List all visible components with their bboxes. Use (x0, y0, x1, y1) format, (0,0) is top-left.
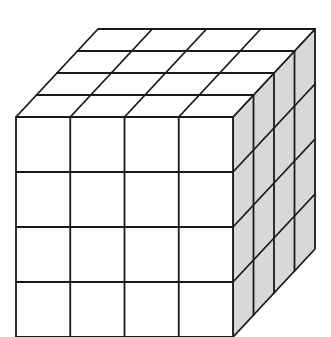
cube-diagram (0, 0, 331, 337)
front-face (16, 117, 233, 337)
cube-drawing (0, 0, 331, 337)
